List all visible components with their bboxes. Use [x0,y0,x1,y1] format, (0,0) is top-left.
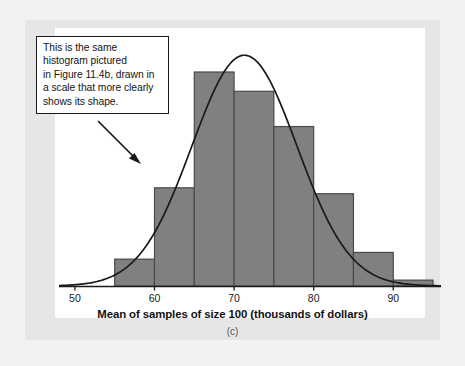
x-axis-tick-label: 90 [387,292,399,304]
histogram-bar [194,72,234,286]
callout-text: This is the same histogram pictured in F… [43,41,163,108]
x-axis-tick-label: 80 [308,292,320,304]
histogram-bar [314,194,354,286]
histogram-bar [234,91,274,286]
x-axis [59,286,441,291]
panel-caption: (c) [0,326,465,337]
x-axis-tick-label: 50 [69,292,81,304]
histogram-bar [274,127,314,286]
x-axis-tick-label: 60 [149,292,161,304]
histogram-bar [155,188,195,286]
figure-root: This is the same histogram pictured in F… [0,0,465,366]
callout-box: This is the same histogram pictured in F… [36,36,169,114]
x-axis-tick-label: 70 [228,292,240,304]
x-axis-title: Mean of samples of size 100 (thousands o… [0,308,465,320]
callout-arrow [98,121,141,164]
